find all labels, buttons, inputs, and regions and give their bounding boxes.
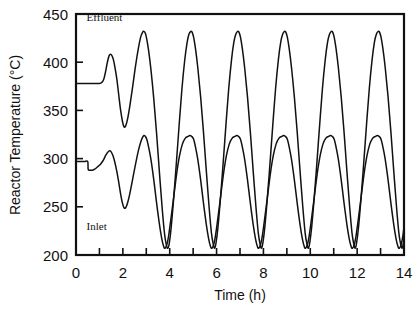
y-tick-label: 350 [43, 102, 68, 119]
y-tick-label: 250 [43, 198, 68, 215]
y-tick-label: 300 [43, 150, 68, 167]
x-tick-label: 0 [72, 264, 80, 281]
y-tick-label: 450 [43, 6, 68, 23]
annotation-effluent: Effluent [87, 11, 123, 23]
x-tick-label: 6 [212, 264, 220, 281]
x-tick-label: 2 [119, 264, 127, 281]
reactor-temperature-chart: 200250300350400450 02468101214 Reactor T… [0, 0, 419, 314]
x-tick-label: 14 [396, 264, 413, 281]
x-tick-label: 8 [259, 264, 267, 281]
y-tick-label: 400 [43, 54, 68, 71]
x-axis-title: Time (h) [214, 287, 266, 303]
y-tick-label: 200 [43, 247, 68, 264]
y-axis-title: Reactor Temperature (°C) [7, 55, 23, 215]
x-tick-label: 12 [349, 264, 366, 281]
x-tick-label: 10 [302, 264, 319, 281]
annotation-inlet: Inlet [87, 220, 107, 232]
chart-figure: 200250300350400450 02468101214 Reactor T… [0, 0, 419, 314]
x-tick-label: 4 [166, 264, 174, 281]
